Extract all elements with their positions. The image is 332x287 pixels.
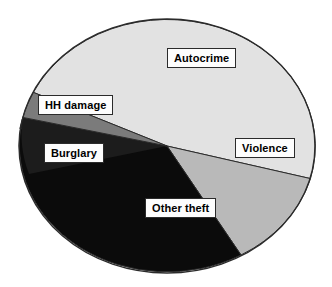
- pie-label-hh-damage: HH damage: [38, 95, 113, 115]
- pie-label-violence: Violence: [235, 138, 295, 158]
- pie-chart-figure: Autocrime Violence Other theft Burglary …: [0, 0, 332, 287]
- pie-label-other-theft: Other theft: [145, 198, 216, 218]
- pie-label-autocrime: Autocrime: [167, 48, 236, 68]
- pie-label-burglary: Burglary: [44, 143, 104, 163]
